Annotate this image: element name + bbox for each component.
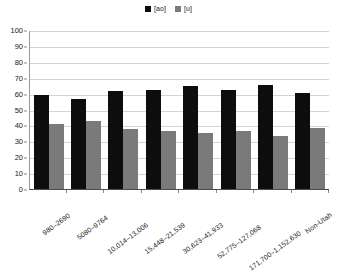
bar-u <box>49 124 64 189</box>
y-axis-tick-mark <box>24 31 27 32</box>
y-axis-tick-label: 80 <box>15 59 23 67</box>
bar-u <box>161 131 176 189</box>
y-axis-tick-mark <box>24 110 27 111</box>
bar-group <box>142 31 179 189</box>
y-axis-tick-mark <box>24 142 27 143</box>
x-axis-label: 15,448–21,539 <box>143 221 187 256</box>
plot-area <box>29 31 329 190</box>
bar-ao <box>295 93 310 189</box>
bar-ao <box>183 86 198 189</box>
y-axis-tick-mark <box>24 158 27 159</box>
bar-group <box>254 31 291 189</box>
chart-legend: [ao] [u] <box>0 3 337 15</box>
bar-ao <box>108 91 123 189</box>
y-axis-tick-label: 10 <box>15 170 23 178</box>
legend-entry-u: [u] <box>175 5 192 13</box>
x-axis-label: 980–2690 <box>41 212 72 237</box>
legend-entry-ao: [ao] <box>145 5 166 13</box>
y-axis-tick-mark <box>24 62 27 63</box>
x-axis-labels: 980–26905080–976410,014–13,00615,448–21,… <box>29 193 329 251</box>
bar-group <box>292 31 329 189</box>
bar-u <box>236 131 251 189</box>
y-axis-tick-label: 0 <box>19 186 23 194</box>
y-axis-tick-label: 70 <box>15 75 23 83</box>
bar-u <box>310 128 325 189</box>
bar-group <box>30 31 67 189</box>
bar-u <box>198 133 213 189</box>
bar-group <box>180 31 217 189</box>
y-axis-tick-label: 60 <box>15 91 23 99</box>
legend-label-ao: [ao] <box>154 5 166 13</box>
legend-swatch-ao-icon <box>145 6 151 12</box>
bar-group <box>105 31 142 189</box>
y-axis-tick-mark <box>24 126 27 127</box>
bar-u <box>86 121 101 189</box>
y-axis-tick-label: 20 <box>15 154 23 162</box>
bar-groups <box>30 31 329 189</box>
bar-ao <box>221 90 236 189</box>
y-axis-tick-label: 30 <box>15 138 23 146</box>
bar-group <box>67 31 104 189</box>
y-axis-tick-mark <box>24 190 27 191</box>
x-axis-label: 171,700–1,152,630 <box>247 229 302 272</box>
bar-group <box>217 31 254 189</box>
bar-ao <box>258 85 273 189</box>
x-axis-label: 10,014–13,006 <box>106 221 150 256</box>
x-axis-label: Non-Utah <box>304 211 334 236</box>
y-axis: 1009080706050403020100 <box>0 31 26 190</box>
y-axis-tick-mark <box>24 174 27 175</box>
x-axis-label: 5080–9764 <box>76 214 110 242</box>
bar-ao <box>34 95 49 189</box>
legend-swatch-u-icon <box>175 6 181 12</box>
y-axis-tick-label: 50 <box>15 107 23 115</box>
y-axis-tick-mark <box>24 94 27 95</box>
bar-ao <box>146 90 161 189</box>
y-axis-tick-mark <box>24 46 27 47</box>
y-axis-tick-label: 100 <box>10 27 23 35</box>
bar-u <box>273 136 288 189</box>
bar-ao <box>71 99 86 189</box>
legend-label-u: [u] <box>184 5 192 13</box>
x-axis-label: 30,623–41,933 <box>181 221 225 256</box>
y-axis-tick-label: 90 <box>15 43 23 51</box>
y-axis-tick-mark <box>24 78 27 79</box>
y-axis-tick-label: 40 <box>15 122 23 130</box>
bar-u <box>123 129 138 189</box>
